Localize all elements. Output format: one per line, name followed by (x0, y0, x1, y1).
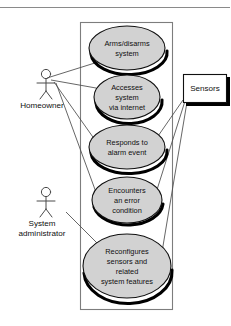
sysadmin-right-leg-line (46, 209, 52, 217)
use-case-label-1-line-1: Arms/disarms (104, 39, 149, 48)
sysadmin-left-leg-line (40, 209, 46, 217)
assoc-homeowner-responds-alarm (54, 82, 95, 140)
use-case-label-2-line-2: system (115, 93, 138, 102)
external-entity-sensors[interactable]: Sensors (184, 75, 231, 107)
use-case-label-4-line-3: condition (112, 206, 142, 215)
use-case-label-3-line-1: Responds to (106, 138, 148, 147)
sensors-box-label: Sensors (190, 84, 220, 93)
use-case-accesses-system-via-internet[interactable]: Accesses system via internet (94, 75, 162, 124)
sysadmin-head-icon (41, 187, 50, 196)
uml-diagram-canvas: Arms/disarms system Accesses system via … (0, 0, 230, 326)
homeowner-head-icon (41, 69, 50, 78)
assoc-sysadmin-reconfigures (66, 212, 99, 245)
use-case-encounters-an-error-condition[interactable]: Encounters an error condition (92, 177, 163, 225)
actor-label-sysadmin-line-2: administrator (19, 229, 66, 238)
homeowner-left-leg-line (40, 91, 46, 99)
use-case-label-5-line-3: related (116, 267, 139, 276)
actor-system-administrator[interactable]: System administrator (19, 187, 66, 238)
use-case-responds-to-alarm-event[interactable]: Responds to alarm event (89, 125, 167, 174)
use-case-label-4-line-1: Encounters (108, 186, 146, 195)
actor-homeowner[interactable]: Homeowner (20, 69, 64, 110)
use-case-reconfigures-sensors-and-related-system-features[interactable]: Reconfigures sensors and related system … (83, 234, 172, 304)
homeowner-right-leg-line (46, 91, 52, 99)
use-case-label-3-line-2: alarm event (108, 148, 147, 157)
use-case-arms-disarms-system[interactable]: Arms/disarms system (89, 26, 167, 75)
use-case-label-2-line-1: Accesses (111, 83, 143, 92)
use-case-label-5-line-1: Reconfigures (105, 247, 149, 256)
use-case-label-5-line-2: sensors and (107, 257, 147, 266)
use-case-label-2-line-3: via internet (109, 103, 145, 112)
use-case-label-1-line-2: system (115, 49, 138, 58)
assoc-homeowner-arms-disarms (47, 62, 98, 78)
actor-label-homeowner: Homeowner (20, 101, 64, 110)
use-case-label-5-line-4: system features (101, 277, 153, 286)
use-case-label-4-line-2: an error (114, 196, 140, 205)
actor-label-sysadmin-line-1: System (29, 219, 56, 228)
use-case-diagram: Arms/disarms system Accesses system via … (0, 0, 230, 326)
